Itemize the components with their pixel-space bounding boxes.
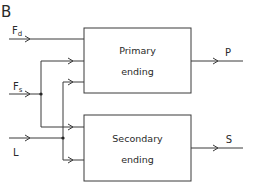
fd-input: Fd	[9, 25, 84, 42]
panel-label: B	[1, 3, 11, 21]
muscle-spindle-block-diagram: B Primary ending Secondary ending Fd Fs	[0, 0, 256, 189]
fs-input: Fs	[9, 58, 84, 130]
fd-label: Fd	[12, 25, 22, 38]
secondary-block-line2: ending	[121, 154, 154, 165]
p-output: P	[191, 47, 243, 64]
primary-block-line1: Primary	[119, 45, 156, 56]
secondary-block-line1: Secondary	[112, 133, 163, 144]
p-label: P	[225, 47, 231, 58]
primary-block-line2: ending	[121, 66, 154, 77]
s-label: S	[226, 134, 232, 145]
l-label: L	[13, 147, 19, 158]
secondary-ending-block: Secondary ending	[84, 115, 191, 181]
s-output: S	[191, 134, 243, 151]
primary-ending-block: Primary ending	[84, 28, 191, 93]
fs-label: Fs	[13, 81, 23, 94]
